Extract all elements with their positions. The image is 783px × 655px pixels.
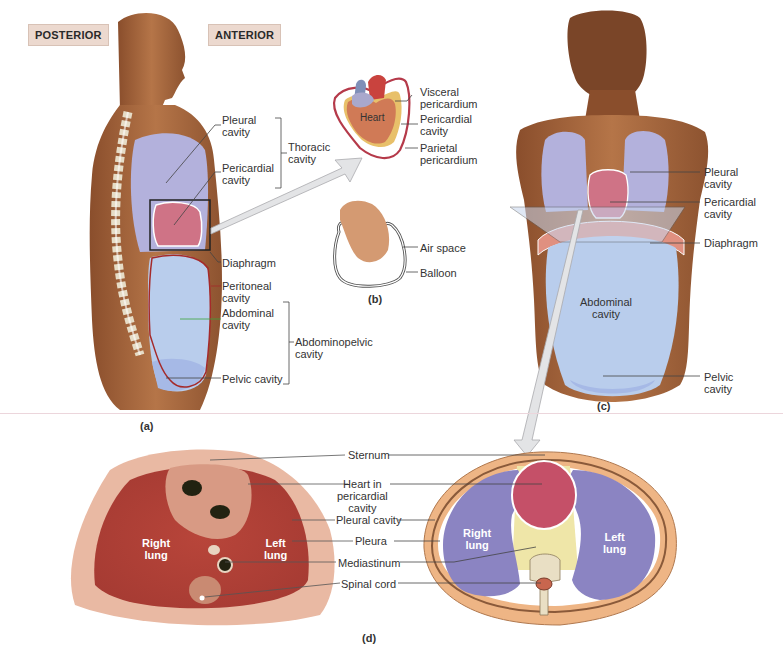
panel-label-c: (c) [597,400,610,412]
label-line: cavity [222,319,274,331]
label-line: Pericardial [222,162,274,174]
label-diaphragm-a: Diaphragm [222,257,276,269]
label-line: Pericardial [420,113,472,125]
label-line: Abdominal [580,296,632,308]
label-line: pericardial [337,490,388,502]
panel-label-a: (a) [140,420,153,432]
panel-label-b: (b) [368,293,382,305]
label-abdominal-cavity-a: Abdominal cavity [222,307,274,331]
label-line: cavity [420,125,472,137]
label-line: Thoracic [288,141,330,153]
label-line: Left [603,531,626,543]
label-thoracic-cavity: Thoracic cavity [288,141,330,165]
label-sternum: Sternum [348,449,390,461]
label-line: cavity [704,208,756,220]
label-left-lung-illustration: Left lung [603,531,626,555]
head-frontal [567,11,646,101]
label-parietal-pericardium: Parietal pericardium [420,142,477,166]
label-line: pericardium [420,154,477,166]
posterior-tag: POSTERIOR [28,24,109,46]
label-line: lung [463,539,491,551]
spinal-cord-illustration [536,578,552,590]
label-line: Abdominal [222,307,274,319]
panel-divider [0,413,783,414]
panel-d-illustrated-section [388,452,676,625]
label-line: Right [463,527,491,539]
label-pelvic-cavity-c: Pelvic cavity [704,371,733,395]
head-silhouette [118,13,185,112]
label-right-lung-photo: Right lung [142,537,170,561]
label-spinal-cord: Spinal cord [341,578,396,590]
label-diaphragm-c: Diaphragm [704,237,758,249]
label-pelvic-cavity-a: Pelvic cavity [222,373,283,385]
heart-illustration [512,461,576,529]
label-line: Pelvic [704,371,733,383]
label-line: Heart in [337,478,388,490]
label-line: lung [142,549,170,561]
label-heart-in-pericardial-cavity: Heart in pericardial cavity [337,478,388,514]
pericardial-cavity-region [153,202,202,246]
label-air-space: Air space [420,242,466,254]
label-line: lung [264,549,287,561]
label-line: lung [603,543,626,555]
label-line: pericardium [420,98,477,110]
label-line: Pleural [704,166,738,178]
panel-b-pericardium-diagram [334,75,418,286]
label-line: Parietal [420,142,477,154]
label-mediastinum: Mediastinum [338,557,400,569]
label-pleural-cavity-c: Pleural cavity [704,166,738,190]
label-left-lung-photo: Left lung [264,537,287,561]
label-line: Left [264,537,287,549]
label-line: cavity [295,348,373,360]
label-line: Abdominopelvic [295,336,373,348]
label-balloon: Balloon [420,267,457,279]
panel-label-d: (d) [362,632,376,644]
label-line: Visceral [420,86,477,98]
left-pleural-region [541,132,588,212]
body-cavities-figure: POSTERIOR ANTERIOR Pleural cavity Perica… [0,0,783,655]
label-line: Peritoneal [222,280,272,292]
label-abdominopelvic-cavity: Abdominopelvic cavity [295,336,373,360]
right-pleural-region [622,131,669,212]
label-line: Pleural [222,114,256,126]
panel-d-cadaver-section [71,449,353,625]
label-heart: Heart [360,112,384,124]
label-pericardial-cavity-a: Pericardial cavity [222,162,274,186]
label-line: cavity [222,292,272,304]
label-pleural-cavity-d: Pleural cavity [336,514,401,526]
panel-c-frontal-figure [510,11,708,457]
label-pericardial-cavity-c: Pericardial cavity [704,196,756,220]
label-line: cavity [580,308,632,320]
label-line: Pericardial [704,196,756,208]
label-pleura: Pleura [355,535,387,547]
label-right-lung-illustration: Right lung [463,527,491,551]
label-abdominal-cavity-c: Abdominal cavity [580,296,632,320]
label-pleural-cavity-a: Pleural cavity [222,114,256,138]
label-pericardial-cavity-b: Pericardial cavity [420,113,472,137]
label-peritoneal-cavity: Peritoneal cavity [222,280,272,304]
label-line: cavity [288,153,330,165]
label-visceral-pericardium: Visceral pericardium [420,86,477,110]
label-line: cavity [704,383,733,395]
label-line: cavity [222,174,274,186]
label-line: cavity [222,126,256,138]
anterior-tag: ANTERIOR [208,24,281,46]
label-line: cavity [337,502,388,514]
label-line: cavity [704,178,738,190]
label-line: Right [142,537,170,549]
